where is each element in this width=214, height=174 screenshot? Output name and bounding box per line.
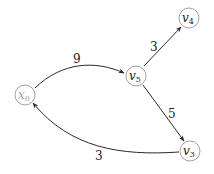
edge-label-v3-x0: 3 bbox=[95, 149, 103, 163]
node-v3-sub: 3 bbox=[190, 150, 195, 159]
node-v4[interactable]: v4 bbox=[179, 8, 199, 28]
graph-diagram: 9 3 5 3 x0 v5 v4 v3 bbox=[0, 0, 214, 174]
node-v5[interactable]: v5 bbox=[126, 66, 146, 86]
edge-label-v5-v3: 5 bbox=[168, 107, 176, 121]
edge-label-v5-v4: 3 bbox=[150, 40, 158, 54]
edge-v3-x0 bbox=[33, 103, 179, 153]
node-x0-sub: 0 bbox=[25, 94, 30, 103]
node-v3[interactable]: v3 bbox=[180, 141, 200, 161]
node-v4-sub: 4 bbox=[189, 17, 194, 26]
node-x0[interactable]: x0 bbox=[15, 85, 35, 105]
edge-label-x0-v5: 9 bbox=[73, 52, 81, 66]
edge-x0-v5 bbox=[35, 65, 124, 88]
node-v5-sub: 5 bbox=[136, 75, 141, 84]
edge-v5-v3 bbox=[143, 85, 184, 141]
